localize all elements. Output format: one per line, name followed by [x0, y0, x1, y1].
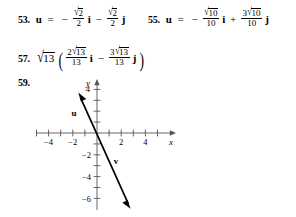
answer-57-term-1-fraction: 2√13 13	[66, 47, 86, 68]
answer-57-term-2-unit: j	[133, 52, 137, 64]
y-tick-label-minus-6: −6	[82, 194, 91, 204]
answer-57: 57. √13 ( 2√13 13 i − 3√13 13 j )	[18, 47, 145, 71]
answer-53-variable: u	[33, 13, 42, 25]
fraction-denominator: 2	[107, 19, 118, 28]
answer-59-number: 59.	[18, 77, 30, 88]
close-paren: )	[140, 49, 145, 71]
radical-sign-icon: √	[247, 7, 252, 19]
answer-55-term-1-fraction: √10 10	[203, 8, 219, 29]
answer-57-number: 57.	[18, 53, 30, 64]
answer-55: 55. u = − √10 10 i + 3√10 10 j	[148, 8, 269, 29]
radical: √10	[247, 8, 261, 18]
answer-57-outer-radical: √13	[33, 51, 55, 64]
answer-55-term-1-sign: −	[190, 13, 200, 25]
radical-sign-icon: √	[115, 46, 120, 58]
answer-53-term-2-sign: −	[93, 13, 103, 25]
y-axis-arrowhead-icon	[94, 79, 99, 85]
vector-graph-figure: y x −4 −2 2 4 4 −2 −4 −6 u v	[34, 74, 180, 214]
answer-55-equals: =	[175, 13, 187, 25]
fraction-numerator: 2√13	[66, 47, 86, 58]
radical-sign-icon: √	[72, 46, 77, 58]
radicand: 10	[208, 8, 218, 18]
x-tick-label-minus-4: −4	[44, 137, 54, 147]
answer-55-term-2-fraction: 3√10 10	[241, 8, 261, 29]
answer-53-equals: =	[45, 13, 57, 25]
answer-55-term-2-unit: j	[265, 13, 269, 25]
vector-v-label: v	[114, 156, 119, 166]
radicand: 13	[43, 52, 55, 64]
radical-sign-icon: √	[204, 7, 209, 19]
answer-53-term-2-unit: j	[122, 13, 126, 25]
radical: √13	[115, 47, 129, 57]
y-tick-label-4: 4	[86, 84, 91, 94]
answer-55-variable: u	[163, 13, 172, 25]
answer-55-term-1-unit: i	[222, 13, 225, 25]
x-axis-label: x	[168, 137, 173, 147]
radical: √2	[108, 8, 117, 18]
answer-53-term-1-sign: −	[60, 13, 70, 25]
answer-57-term-1-unit: i	[90, 52, 93, 64]
fraction-numerator: √2	[107, 8, 118, 19]
x-tick-label-2: 2	[119, 137, 123, 147]
vector-u-label: u	[71, 108, 76, 118]
y-tick-label-minus-4: −4	[82, 172, 92, 182]
radical-sign-icon: √	[37, 47, 44, 63]
open-paren: (	[58, 49, 63, 71]
answer-55-number: 55.	[148, 14, 160, 25]
answer-53-term-1-fraction: √2 2	[73, 8, 84, 29]
fraction-denominator: 10	[203, 19, 219, 28]
x-tick-label-4: 4	[143, 137, 148, 147]
x-axis-arrowhead-icon	[170, 130, 176, 135]
vector-v-arrowhead-icon	[122, 200, 130, 209]
y-tick-label-minus-2: −2	[82, 150, 91, 160]
radicand: 13	[76, 47, 86, 57]
radical: √10	[204, 8, 218, 18]
fraction-numerator: √2	[73, 8, 84, 19]
answer-59: 59.	[18, 77, 30, 88]
answer-57-term-2-sign: −	[96, 52, 106, 64]
radicand: 10	[251, 8, 261, 18]
fraction-denominator: 10	[241, 19, 261, 28]
answer-53-number: 53.	[18, 14, 30, 25]
radical: √13	[72, 47, 86, 57]
answer-55-term-2-sign: +	[228, 13, 238, 25]
vector-graph-svg: y x −4 −2 2 4 4 −2 −4 −6 u v	[34, 74, 180, 214]
radicand: 13	[119, 47, 129, 57]
fraction-denominator: 13	[66, 58, 86, 67]
fraction-denominator: 2	[73, 19, 84, 28]
fraction-denominator: 13	[109, 58, 129, 67]
fraction-numerator: 3√13	[109, 47, 129, 58]
answer-53-term-1-unit: i	[88, 13, 91, 25]
fraction-numerator: 3√10	[241, 8, 261, 19]
answer-57-term-2-fraction: 3√13 13	[109, 47, 129, 68]
radical-sign-icon: √	[108, 7, 113, 19]
answer-53-term-2-fraction: √2 2	[107, 8, 118, 29]
radical-sign-icon: √	[74, 7, 79, 19]
x-tick-label-minus-2: −2	[68, 137, 77, 147]
answer-53: 53. u = − √2 2 i − √2 2 j	[18, 8, 125, 29]
radical: √2	[74, 8, 83, 18]
